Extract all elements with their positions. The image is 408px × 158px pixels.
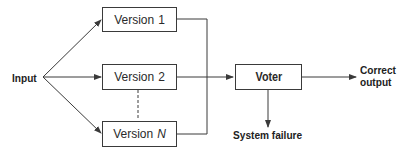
connector-lines (0, 0, 408, 158)
system-failure-label: System failure (233, 129, 302, 141)
voter-box: Voter (235, 64, 302, 90)
correct-output-line-2: output (360, 76, 396, 88)
correct-output-label: Correct output (360, 64, 396, 88)
arrow-input-to-version-n (43, 77, 101, 133)
version-1-number: 1 (158, 13, 165, 27)
version-2-label: Version (114, 70, 154, 84)
version-2-box: Version 2 (102, 64, 177, 90)
version-1-label: Version (114, 13, 154, 27)
correct-output-line-1: Correct (360, 64, 396, 76)
input-label: Input (12, 72, 37, 84)
arrow-input-to-version-1 (43, 20, 101, 77)
version-2-number: 2 (158, 70, 165, 84)
n-version-diagram: Input Version 1 Version 2 Version N Vote… (0, 0, 408, 158)
voter-label: Voter (255, 70, 282, 84)
version-n-number: N (157, 127, 166, 141)
version-1-box: Version 1 (102, 7, 177, 32)
version-n-box: Version N (102, 121, 177, 147)
version-n-label: Version (113, 127, 153, 141)
